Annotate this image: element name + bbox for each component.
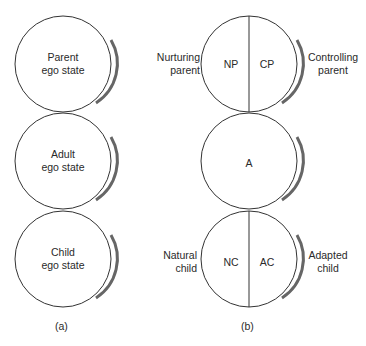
a-label: A: [236, 157, 262, 170]
child-label: Child ego state: [23, 246, 103, 272]
nurturing-parent-desc: Nurturing parent: [150, 51, 200, 77]
cp-label: CP: [254, 58, 280, 71]
ac-label: AC: [254, 256, 280, 269]
caption-a: (a): [55, 320, 68, 332]
np-label: NP: [218, 58, 244, 71]
controlling-parent-desc: Controlling parent: [303, 51, 363, 77]
caption-b: (b): [241, 320, 254, 332]
parent-label: Parent ego state: [23, 51, 103, 77]
natural-child-desc: Natural child: [150, 249, 197, 275]
adult-label: Adult ego state: [23, 148, 103, 174]
adapted-child-desc: Adapted child: [303, 249, 353, 275]
nc-label: NC: [218, 256, 244, 269]
